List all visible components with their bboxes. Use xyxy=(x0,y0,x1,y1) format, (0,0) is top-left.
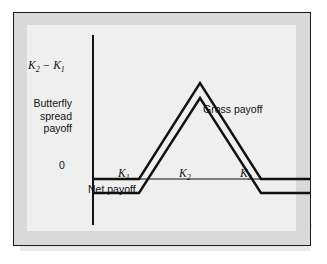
strike-k2-sub: 2 xyxy=(187,173,191,182)
zero-tick-label: 0 xyxy=(59,159,65,171)
strike-k1-sub: 1 xyxy=(126,173,130,182)
y-axis-title-line1: Butterfly xyxy=(24,97,72,110)
peak-label-k2-base: K xyxy=(28,59,36,71)
strike-label-k2: K2 xyxy=(179,167,191,179)
gross-payoff-label: Gross payoff xyxy=(203,103,262,115)
peak-label-k2-sub: 2 xyxy=(36,65,40,74)
peak-label-k1-base: K xyxy=(53,59,61,71)
strike-k3-sub: 3 xyxy=(248,173,252,182)
y-axis-title-line3: payoff xyxy=(24,122,72,135)
net-payoff-label: Net payoff xyxy=(88,183,136,195)
peak-label-operator: − xyxy=(40,59,54,71)
y-axis-title: Butterfly spread payoff xyxy=(24,97,72,135)
gross-payoff-curve xyxy=(93,83,310,179)
peak-label-k1-sub: 1 xyxy=(61,65,65,74)
strike-label-k3: K3 xyxy=(240,167,252,179)
strike-k3-base: K xyxy=(240,167,248,179)
peak-value-label: K2 − K1 xyxy=(28,59,65,71)
strike-label-k1: K1 xyxy=(118,167,130,179)
strike-k1-base: K xyxy=(118,167,126,179)
y-axis-title-line2: spread xyxy=(24,110,72,123)
chart-svg xyxy=(14,13,327,264)
strike-k2-base: K xyxy=(179,167,187,179)
